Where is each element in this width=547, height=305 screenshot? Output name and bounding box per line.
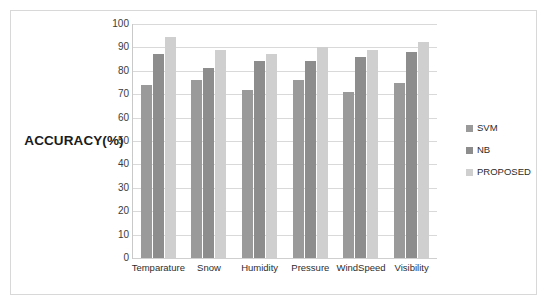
legend-swatch-icon [466, 169, 473, 176]
y-axis-tick-label: 90 [89, 42, 129, 52]
y-axis-tick-label: 30 [89, 183, 129, 193]
legend-label: PROPOSED [477, 167, 531, 177]
legend-item[interactable]: NB [466, 145, 538, 155]
legend-item[interactable]: SVM [466, 123, 538, 133]
x-axis-category-labels: TemparatureSnowHumidityPressureWindSpeed… [133, 24, 437, 284]
y-axis-tick-label: 100 [89, 19, 129, 29]
legend-swatch-icon [466, 125, 473, 132]
x-axis-category-label: Visibility [378, 262, 445, 273]
legend-label: NB [477, 145, 490, 155]
y-axis-tick-label: 80 [89, 66, 129, 76]
chart-legend: SVMNBPROPOSED [466, 123, 538, 189]
chart-figure: ACCURACY(%) 1009080706050403020100 Tempa… [0, 0, 547, 305]
y-axis-tick-label: 50 [89, 136, 129, 146]
y-axis-tick-label: 0 [89, 253, 129, 263]
y-axis-tick-label: 10 [89, 230, 129, 240]
y-axis-tick-label: 60 [89, 113, 129, 123]
y-axis-tick-label: 70 [89, 89, 129, 99]
legend-swatch-icon [466, 147, 473, 154]
y-axis-tick-labels: 1009080706050403020100 [85, 24, 129, 258]
legend-item[interactable]: PROPOSED [466, 167, 538, 177]
y-axis-tick-label: 40 [89, 159, 129, 169]
legend-label: SVM [477, 123, 498, 133]
y-axis-tick-label: 20 [89, 206, 129, 216]
